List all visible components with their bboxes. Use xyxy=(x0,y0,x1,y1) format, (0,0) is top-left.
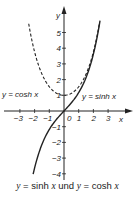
hyperbolic-functions-chart: −3−2−10123−4−3−2−112345 y = cosh x y = s… xyxy=(0,0,135,180)
axis-ticks: −3−2−10123−4−3−2−112345 xyxy=(14,29,111,179)
caption-eq1: = sinh xyxy=(20,180,51,191)
svg-text:2: 2 xyxy=(56,76,62,85)
caption-x2: x xyxy=(115,181,119,191)
svg-text:3: 3 xyxy=(106,114,111,123)
svg-text:−4: −4 xyxy=(52,170,62,179)
svg-text:−2: −2 xyxy=(52,138,62,147)
svg-text:−3: −3 xyxy=(52,154,62,163)
chart-caption: y = sinh x und y = cosh x xyxy=(0,180,135,191)
svg-text:0: 0 xyxy=(67,114,72,123)
caption-und: und xyxy=(56,180,77,191)
cosh-label: y = cosh x xyxy=(1,90,39,99)
sinh-label: y = sinh x xyxy=(81,92,117,101)
svg-text:4: 4 xyxy=(57,44,62,53)
svg-text:−1: −1 xyxy=(43,114,52,123)
svg-text:−3: −3 xyxy=(14,114,24,123)
svg-text:5: 5 xyxy=(57,29,62,38)
svg-text:2: 2 xyxy=(90,114,96,123)
y-axis-label: y xyxy=(55,11,61,20)
svg-text:1: 1 xyxy=(57,91,61,100)
caption-eq2: = cosh xyxy=(81,180,115,191)
svg-text:3: 3 xyxy=(57,60,62,69)
svg-text:−2: −2 xyxy=(28,114,38,123)
x-axis-label: x xyxy=(118,115,124,124)
svg-text:1: 1 xyxy=(77,114,81,123)
